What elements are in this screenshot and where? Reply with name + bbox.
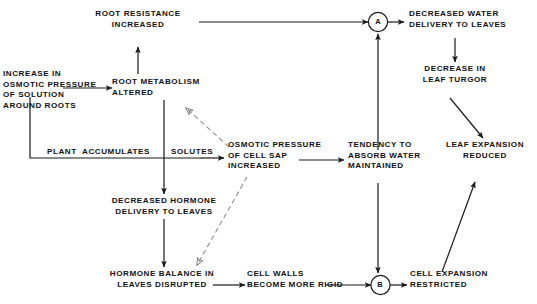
node-hormone-balance-disrupted: HORMONE BALANCE IN LEAVES DISRUPTED: [101, 269, 223, 290]
node-leaf-expansion-reduced: LEAF EXPANSION REDUCED: [437, 140, 533, 161]
node-decreased-hormone-delivery: DECREASED HORMONE DELIVERY TO LEAVES: [104, 196, 224, 217]
edge-cell-sap-to-metabolism-dashed: [186, 108, 229, 147]
node-tendency-absorb-water: TENDENCY TO ABSORB WATER MAINTAINED: [348, 140, 434, 172]
node-decreased-water-delivery: DECREASED WATER DELIVERY TO LEAVES: [409, 9, 525, 30]
edge-cell-expansion-to-leaf-expansion: [442, 182, 475, 272]
edge-label-plant-accumulates: PLANT ACCUMULATES: [47, 147, 150, 156]
edge-cell-sap-to-hormone-balance-dashed: [197, 177, 247, 265]
node-osmotic-pressure-cell-sap: OSMOTIC PRESSURE OF CELL SAP INCREASED: [228, 140, 330, 172]
node-root-metabolism-altered: ROOT METABOLISM ALTERED: [112, 77, 208, 98]
edge-turgor-to-leaf-expansion: [450, 98, 483, 138]
junction-b-label: B: [372, 280, 388, 289]
node-root-resistance-increased: ROOT RESISTANCE INCREASED: [85, 9, 191, 30]
node-decrease-in-leaf-turgor: DECREASE IN LEAF TURGOR: [409, 64, 501, 85]
node-increase-osmotic-pressure: INCREASE IN OSMOTIC PRESSURE OF SOLUTION…: [3, 69, 103, 111]
node-cell-walls-more-rigid: CELL WALLS BECOME MORE RIGID: [247, 269, 359, 290]
junction-a-label: A: [370, 17, 386, 26]
node-cell-expansion-restricted: CELL EXPANSION RESTRICTED: [410, 269, 516, 290]
diagram-canvas: ROOT RESISTANCE INCREASED INCREASE IN OS…: [0, 0, 537, 304]
edge-label-solutes: SOLUTES: [171, 147, 213, 156]
